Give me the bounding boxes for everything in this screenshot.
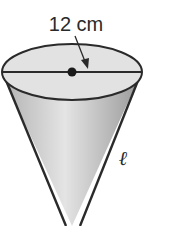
- diameter-label: 12 cm: [49, 13, 103, 35]
- slant-height-label: ℓ: [119, 146, 128, 170]
- center-point: [68, 68, 77, 77]
- cone-diagram: 12 cm ℓ: [0, 0, 190, 226]
